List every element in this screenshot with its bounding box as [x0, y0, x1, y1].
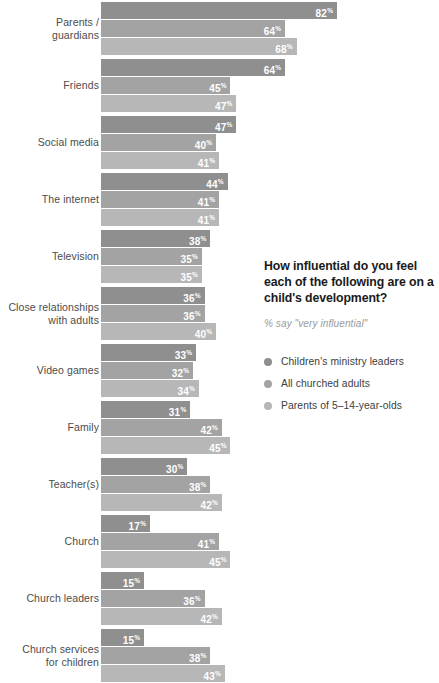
- bar: 36%: [101, 590, 205, 607]
- bar: 47%: [101, 116, 236, 133]
- bar-value-label: 17%: [129, 515, 146, 532]
- bar-value-label: 68%: [275, 38, 292, 55]
- bar: 45%: [101, 437, 230, 454]
- bar-value-number: 45: [209, 443, 221, 454]
- bar: 35%: [101, 248, 202, 265]
- bar-value-label: 41%: [198, 209, 215, 226]
- bar-value-number: 36: [183, 596, 195, 607]
- bar-value-label: 34%: [178, 380, 195, 397]
- bar: 35%: [101, 266, 202, 283]
- bar-value-label: 15%: [123, 629, 140, 646]
- bar-value-label: 32%: [172, 362, 189, 379]
- percent-sign: %: [134, 634, 140, 641]
- category-label-line: Family: [0, 421, 99, 434]
- legend-color-dot: [264, 402, 272, 410]
- bar: 40%: [101, 323, 216, 340]
- bar-value-number: 41: [198, 197, 210, 208]
- bar: 47%: [101, 95, 236, 112]
- percent-sign: %: [180, 406, 186, 413]
- bar: 43%: [101, 665, 225, 682]
- bar-value-number: 47: [215, 101, 227, 112]
- percent-sign: %: [195, 310, 201, 317]
- category-label-line: Close relationships: [0, 301, 99, 314]
- bar-value-label: 42%: [201, 419, 218, 436]
- bar-group: Social media47%40%41%: [0, 116, 439, 169]
- legend-label: Parents of 5–14-year-olds: [281, 400, 402, 411]
- bar-value-number: 43: [203, 671, 215, 682]
- bar: 82%: [101, 2, 337, 19]
- bar-value-number: 47: [215, 122, 227, 133]
- bar-value-label: 31%: [169, 401, 186, 418]
- category-label: The internet: [0, 193, 99, 206]
- bar-value-number: 45: [209, 557, 221, 568]
- bar-value-label: 36%: [183, 287, 200, 304]
- bar-value-label: 41%: [198, 191, 215, 208]
- bar-group: Parents /guardians82%64%68%: [0, 2, 439, 55]
- percent-sign: %: [201, 235, 207, 242]
- bar: 30%: [101, 458, 187, 475]
- bar-group-bars: 44%41%41%: [101, 173, 228, 226]
- bar-value-number: 36: [183, 311, 195, 322]
- bar: 15%: [101, 629, 144, 646]
- bar-group: Church leaders15%36%42%: [0, 572, 439, 625]
- legend-color-dot: [264, 380, 272, 388]
- bar-value-label: 45%: [209, 437, 226, 454]
- percent-sign: %: [192, 271, 198, 278]
- bar-value-label: 64%: [264, 20, 281, 37]
- bar-value-number: 64: [264, 65, 276, 76]
- category-label-line: Friends: [0, 79, 99, 92]
- bar: 40%: [101, 134, 216, 151]
- bar-group: Church servicesfor children15%38%43%: [0, 629, 439, 682]
- percent-sign: %: [226, 100, 232, 107]
- category-label-line: Video games: [0, 364, 99, 377]
- bar-value-label: 36%: [183, 305, 200, 322]
- bar-value-label: 41%: [198, 533, 215, 550]
- bar: 17%: [101, 515, 150, 532]
- bar: 38%: [101, 230, 210, 247]
- category-label: Church: [0, 535, 99, 548]
- bar: 41%: [101, 191, 219, 208]
- bar-group: The internet44%41%41%: [0, 173, 439, 226]
- bar-group: Teacher(s)30%38%42%: [0, 458, 439, 511]
- bar-value-number: 45: [209, 83, 221, 94]
- bar-value-number: 41: [198, 215, 210, 226]
- bar-value-label: 42%: [201, 494, 218, 511]
- category-label: Family: [0, 421, 99, 434]
- category-label: Close relationshipswith adults: [0, 301, 99, 326]
- category-label-line: Social media: [0, 136, 99, 149]
- percent-sign: %: [212, 613, 218, 620]
- category-label: Video games: [0, 364, 99, 377]
- bar: 64%: [101, 59, 285, 76]
- percent-sign: %: [327, 7, 333, 14]
- bar-value-label: 47%: [215, 116, 232, 133]
- bar-group-bars: 47%40%41%: [101, 116, 236, 169]
- bar-value-number: 17: [129, 521, 141, 532]
- legend-label: Children's ministry leaders: [281, 356, 404, 367]
- bar: 36%: [101, 305, 205, 322]
- bar: 15%: [101, 572, 144, 589]
- bar-value-label: 41%: [198, 152, 215, 169]
- bar: 42%: [101, 494, 222, 511]
- bar: 64%: [101, 20, 285, 37]
- percent-sign: %: [212, 499, 218, 506]
- bar-value-label: 15%: [123, 572, 140, 589]
- bar-group-bars: 64%45%47%: [101, 59, 285, 112]
- bar: 44%: [101, 173, 228, 190]
- legend-label: All churched adults: [281, 378, 370, 389]
- category-label: Social media: [0, 136, 99, 149]
- bar-value-label: 44%: [206, 173, 223, 190]
- percent-sign: %: [221, 442, 227, 449]
- percent-sign: %: [178, 463, 184, 470]
- category-label: Church servicesfor children: [0, 643, 99, 668]
- category-label-line: with adults: [0, 314, 99, 327]
- category-label-line: Church leaders: [0, 592, 99, 605]
- bar-value-number: 42: [201, 425, 213, 436]
- percent-sign: %: [221, 82, 227, 89]
- bar-value-label: 64%: [264, 59, 281, 76]
- percent-sign: %: [195, 292, 201, 299]
- bar-group: Church17%41%45%: [0, 515, 439, 568]
- percent-sign: %: [183, 367, 189, 374]
- bar-value-number: 42: [201, 500, 213, 511]
- bar-group-bars: 31%42%45%: [101, 401, 230, 454]
- category-label: Parents /guardians: [0, 16, 99, 41]
